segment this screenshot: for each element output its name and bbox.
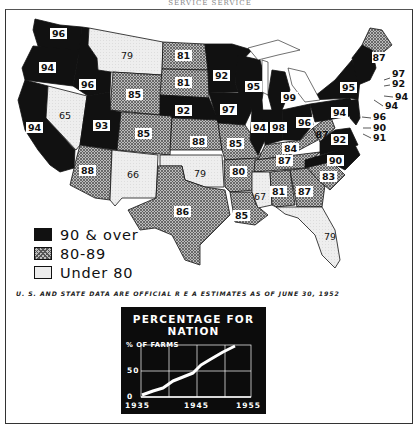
callout-md: 91 bbox=[373, 132, 386, 143]
label-ar: 80 bbox=[230, 166, 247, 177]
svg-text:85: 85 bbox=[235, 210, 248, 221]
inset-plot bbox=[121, 307, 266, 414]
callout-nj: 96 bbox=[373, 111, 387, 122]
label-ny: 95 bbox=[340, 82, 357, 93]
svg-text:79: 79 bbox=[121, 50, 133, 61]
label-oh: 96 bbox=[296, 117, 313, 128]
svg-text:96: 96 bbox=[298, 117, 312, 128]
svg-text:94: 94 bbox=[333, 107, 347, 118]
inset-xtick-1935: 1935 bbox=[125, 401, 150, 410]
svg-text:88: 88 bbox=[192, 136, 206, 147]
svg-text:84: 84 bbox=[284, 143, 298, 154]
label-ok: 79 bbox=[194, 168, 206, 179]
label-wi: 95 bbox=[245, 81, 262, 92]
state-michigan bbox=[268, 70, 290, 110]
map-legend: 90 & over 80-89 Under 80 bbox=[34, 225, 139, 282]
callout-vt: 94 bbox=[358, 48, 372, 59]
svg-text:93: 93 bbox=[95, 120, 108, 131]
label-mn: 92 bbox=[213, 70, 230, 81]
label-wy: 85 bbox=[126, 89, 143, 100]
label-ne: 92 bbox=[175, 105, 192, 116]
svg-text:90: 90 bbox=[329, 155, 343, 166]
svg-text:87: 87 bbox=[372, 52, 385, 63]
state-wisconsin bbox=[235, 55, 265, 100]
svg-text:97: 97 bbox=[222, 104, 235, 115]
svg-text:87: 87 bbox=[298, 186, 311, 197]
svg-text:65: 65 bbox=[59, 110, 71, 121]
svg-text:86: 86 bbox=[176, 206, 190, 217]
label-mi: 99 bbox=[281, 92, 298, 103]
svg-text:85: 85 bbox=[229, 138, 242, 149]
svg-text:92: 92 bbox=[177, 105, 190, 116]
label-mo: 85 bbox=[227, 138, 244, 149]
svg-text:98: 98 bbox=[272, 122, 286, 133]
svg-text:94: 94 bbox=[28, 122, 42, 133]
state-new-york bbox=[310, 60, 360, 100]
svg-text:81: 81 bbox=[272, 186, 285, 197]
label-wa: 96 bbox=[50, 28, 67, 39]
svg-text:81: 81 bbox=[177, 50, 190, 61]
label-ks: 88 bbox=[190, 136, 207, 147]
label-ga: 87 bbox=[296, 186, 313, 197]
legend-swatch-black bbox=[34, 228, 52, 241]
state-nj-md-de bbox=[350, 100, 360, 125]
svg-text:96: 96 bbox=[52, 28, 66, 39]
legend-swatch-hatched bbox=[34, 247, 52, 260]
svg-text:92: 92 bbox=[333, 134, 346, 145]
legend-swatch-light bbox=[34, 266, 52, 279]
label-pa: 94 bbox=[331, 107, 348, 118]
svg-text:99: 99 bbox=[283, 92, 296, 103]
label-tx: 86 bbox=[174, 206, 191, 217]
inset-xtick-1955: 1955 bbox=[236, 401, 261, 410]
label-al: 81 bbox=[270, 186, 287, 197]
svg-text:66: 66 bbox=[127, 169, 139, 180]
svg-text:83: 83 bbox=[322, 171, 335, 182]
svg-text:87: 87 bbox=[315, 129, 328, 140]
svg-text:94: 94 bbox=[41, 62, 55, 73]
label-la: 85 bbox=[233, 210, 250, 221]
svg-text:87: 87 bbox=[278, 155, 291, 166]
svg-text:85: 85 bbox=[137, 128, 150, 139]
label-sc: 83 bbox=[320, 171, 337, 182]
label-wv: 87 bbox=[315, 129, 328, 140]
label-ca: 94 bbox=[26, 122, 43, 133]
lake-michigan bbox=[262, 60, 268, 95]
source-note: U. S. AND STATE DATA ARE OFFICIAL R E A … bbox=[16, 290, 340, 297]
nation-inset-chart: PERCENTAGE FOR NATION % OF FARMS 50 0 19… bbox=[121, 307, 266, 414]
label-me: 87 bbox=[372, 52, 386, 63]
svg-text:81: 81 bbox=[177, 77, 190, 88]
svg-text:79: 79 bbox=[324, 231, 336, 242]
svg-text:85: 85 bbox=[128, 89, 141, 100]
label-co: 85 bbox=[135, 128, 152, 139]
callout-ma: 92 bbox=[392, 78, 405, 89]
svg-text:92: 92 bbox=[215, 70, 228, 81]
inset-ytick-0: 0 bbox=[127, 392, 133, 401]
callout-ct: 94 bbox=[385, 100, 399, 111]
inset-ytick-50: 50 bbox=[127, 366, 139, 375]
lake-superior bbox=[248, 40, 300, 60]
svg-text:80: 80 bbox=[232, 166, 246, 177]
label-sd: 81 bbox=[175, 77, 192, 88]
legend-item-under-80: Under 80 bbox=[34, 263, 139, 282]
svg-text:94: 94 bbox=[253, 122, 267, 133]
label-ms: 67 bbox=[254, 191, 266, 202]
label-az: 88 bbox=[79, 165, 96, 176]
legend-item-90-over: 90 & over bbox=[34, 225, 139, 244]
label-mt: 79 bbox=[121, 50, 133, 61]
nation-line bbox=[142, 346, 235, 395]
label-tn: 87 bbox=[276, 155, 293, 166]
svg-text:95: 95 bbox=[247, 81, 260, 92]
svg-text:79: 79 bbox=[194, 168, 206, 179]
legend-item-80-89: 80-89 bbox=[34, 244, 139, 263]
label-fl: 79 bbox=[324, 231, 336, 242]
label-ky: 84 bbox=[282, 143, 299, 154]
label-va: 92 bbox=[331, 134, 348, 145]
svg-text:88: 88 bbox=[81, 165, 95, 176]
label-ut: 93 bbox=[93, 120, 110, 131]
svg-text:96: 96 bbox=[81, 79, 95, 90]
label-nm: 66 bbox=[127, 169, 139, 180]
label-ia: 97 bbox=[220, 104, 237, 115]
inset-xtick-1945: 1945 bbox=[184, 401, 209, 410]
label-in: 98 bbox=[270, 122, 287, 133]
label-nv: 65 bbox=[59, 110, 71, 121]
